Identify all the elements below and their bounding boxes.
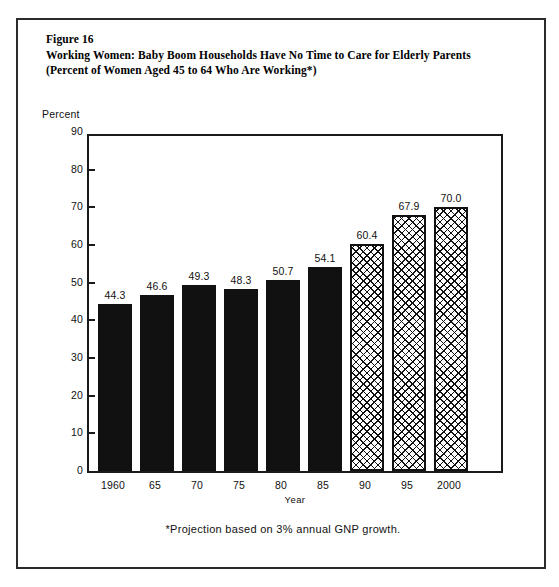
x-tick-label: 80 (264, 479, 298, 491)
figure-page-border: Figure 16 Working Women: Baby Boom House… (16, 18, 546, 569)
bar (140, 295, 174, 471)
bar (98, 304, 132, 471)
plot-frame: 0102030405060708090 44.346.649.348.350.7… (87, 134, 503, 473)
bar (182, 285, 216, 471)
x-tick-label: 75 (222, 479, 256, 491)
bar-value-label: 44.3 (104, 289, 125, 301)
y-tick-label: 40 (71, 313, 83, 325)
bar (266, 280, 300, 471)
bar (350, 244, 384, 472)
bar-value-label: 49.3 (188, 270, 209, 282)
bar-chart: Percent 0102030405060708090 44.346.649.3… (18, 20, 548, 571)
x-tick-label: 2000 (432, 479, 466, 491)
x-axis-title: Year (87, 494, 503, 505)
bar-group: 70.0 (434, 132, 468, 471)
bar-group: 49.3 (182, 132, 216, 471)
y-tick-label: 20 (71, 389, 83, 401)
bar-group: 67.9 (392, 132, 426, 471)
bar-value-label: 67.9 (398, 200, 419, 212)
y-tick-label: 70 (71, 200, 83, 212)
bar (224, 289, 258, 471)
bar (392, 215, 426, 471)
bar (308, 267, 342, 471)
y-tick-label: 30 (71, 351, 83, 363)
bar-group: 44.3 (98, 132, 132, 471)
y-tick-label: 10 (71, 426, 83, 438)
bar-group: 48.3 (224, 132, 258, 471)
figure-footnote: *Projection based on 3% annual GNP growt… (18, 523, 548, 535)
bar-group: 46.6 (140, 132, 174, 471)
bar (434, 207, 468, 471)
y-tick-label: 90 (71, 125, 83, 137)
x-tick-label: 65 (138, 479, 172, 491)
bars-layer: 44.346.649.348.350.754.160.467.970.0 (89, 136, 501, 471)
x-tick-label: 85 (306, 479, 340, 491)
bar-value-label: 46.6 (146, 280, 167, 292)
bar-value-label: 50.7 (272, 265, 293, 277)
bar-value-label: 60.4 (356, 229, 377, 241)
y-tick-label: 0 (77, 464, 83, 476)
y-axis-title: Percent (42, 108, 80, 120)
bar-group: 60.4 (350, 132, 384, 471)
y-tick-label: 80 (71, 163, 83, 175)
x-tick-label: 90 (348, 479, 382, 491)
bar-value-label: 70.0 (440, 192, 461, 204)
bar-group: 54.1 (308, 132, 342, 471)
y-tick-label: 50 (71, 276, 83, 288)
y-tick-label: 60 (71, 238, 83, 250)
bar-value-label: 54.1 (314, 252, 335, 264)
bar-group: 50.7 (266, 132, 300, 471)
x-tick-label: 70 (180, 479, 214, 491)
bar-value-label: 48.3 (230, 274, 251, 286)
x-tick-label: 95 (390, 479, 424, 491)
x-tick-label: 1960 (96, 479, 130, 491)
